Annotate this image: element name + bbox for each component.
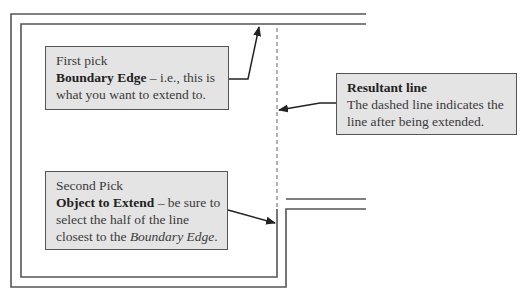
wall-drawing xyxy=(0,0,526,299)
resultant-line-title: Resultant line xyxy=(347,80,427,95)
object-to-extend-arrow xyxy=(228,210,275,223)
second-pick-desc-prefix: closest to the xyxy=(56,229,130,244)
second-pick-title: Second Pick xyxy=(56,177,217,194)
resultant-desc-line-1: The dashed line indicates the xyxy=(347,96,506,113)
second-pick-desc: – be sure to xyxy=(154,195,220,210)
resultant-desc-line-2: line after being extended. xyxy=(347,113,506,130)
boundary-edge-italic: Boundary Edge xyxy=(130,229,214,244)
first-pick-desc-line: what you want to extend to. xyxy=(56,86,218,103)
second-pick-desc-suffix: . xyxy=(214,229,217,244)
second-pick-callout: Second Pick Object to Extend – be sure t… xyxy=(45,171,228,250)
first-pick-title: First pick xyxy=(56,52,218,69)
resultant-line-callout: Resultant line The dashed line indicates… xyxy=(336,73,517,135)
object-to-extend-label: Object to Extend xyxy=(56,195,154,210)
boundary-edge-arrow xyxy=(229,27,259,79)
second-pick-desc-line: select the half of the line xyxy=(56,211,217,228)
resultant-line-arrow xyxy=(279,103,336,110)
first-pick-callout: First pick Boundary Edge – i.e., this is… xyxy=(45,46,229,110)
boundary-edge-label: Boundary Edge xyxy=(56,70,146,85)
first-pick-desc: – i.e., this is xyxy=(146,70,215,85)
